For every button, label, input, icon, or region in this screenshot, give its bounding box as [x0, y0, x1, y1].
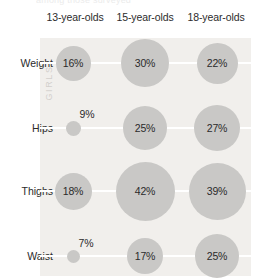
group-caption-girls: GIRLS: [42, 60, 56, 106]
bubble-value-label: 17%: [135, 251, 155, 262]
bubble-thighs-15-year-olds[interactable]: 42%: [116, 162, 175, 221]
bubble-thighs-13-year-olds[interactable]: 18%: [55, 173, 92, 210]
bubble-weight-13-year-olds[interactable]: 16%: [56, 46, 91, 81]
bubble-value-label: 42%: [135, 186, 155, 197]
column-header-18-year-olds: 18-year-olds: [181, 11, 251, 24]
bubble-value-label: 7%: [79, 238, 94, 249]
column-header-15-year-olds: 15-year-olds: [110, 11, 180, 24]
bubble-value-label: 16%: [63, 58, 83, 69]
cropped-headline-text: among those surveyed: [36, 0, 131, 5]
column-header-13-year-olds: 13-year-olds: [40, 11, 110, 24]
bubble-value-label: 25%: [135, 123, 155, 134]
bubble-value-label: 9%: [80, 109, 95, 120]
bubble-value-label: 27%: [207, 123, 227, 134]
bubble-value-label: 25%: [207, 251, 227, 262]
column-header-row: 13-year-olds 15-year-olds 18-year-olds: [40, 11, 251, 37]
bubble-value-label: 30%: [135, 58, 155, 69]
bubble-thighs-18-year-olds[interactable]: 39%: [189, 163, 246, 220]
bubble-hips-15-year-olds[interactable]: 25%: [123, 106, 167, 150]
bubble-value-label: 39%: [207, 186, 227, 197]
bubble-value-label: 22%: [207, 58, 227, 69]
bubble-waist-18-year-olds[interactable]: 25%: [195, 234, 239, 278]
bubble-weight-18-year-olds[interactable]: 22%: [197, 43, 238, 84]
bubble-hips-13-year-olds[interactable]: [66, 121, 81, 136]
bubble-weight-15-year-olds[interactable]: 30%: [121, 39, 169, 87]
bubble-waist-15-year-olds[interactable]: 17%: [127, 238, 163, 274]
cropped-headline: among those surveyed: [0, 0, 257, 6]
bubble-hips-18-year-olds[interactable]: 27%: [194, 105, 240, 151]
bubble-value-label: 18%: [63, 186, 83, 197]
bubble-waist-13-year-olds[interactable]: [67, 250, 80, 263]
